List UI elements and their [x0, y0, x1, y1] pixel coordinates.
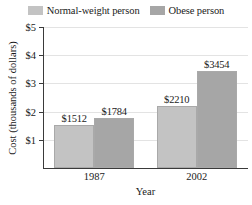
y-axis-tick-label: $5	[26, 22, 37, 33]
x-axis-line	[43, 168, 248, 169]
gridline	[44, 27, 248, 28]
legend-swatch-obese	[150, 6, 165, 15]
bar-value-label: $1512	[62, 113, 87, 124]
legend-swatch-normal-weight	[28, 6, 43, 15]
y-axis-tick	[39, 140, 44, 141]
y-axis-title: Cost (thousands of dollars)	[7, 28, 21, 168]
y-axis-tick	[39, 55, 44, 56]
bar-value-label: $3454	[204, 59, 229, 70]
legend-label-normal-weight: Normal-weight person	[47, 5, 140, 16]
x-axis-category-label: 1987	[84, 171, 105, 182]
y-axis-tick-label: $2	[26, 106, 37, 117]
plot-area: $1$2$3$4$5 $1512$1784$2210$3454	[43, 27, 248, 168]
y-axis-tick	[39, 112, 44, 113]
legend-entry-obese: Obese person	[150, 5, 225, 16]
bar: $1784	[94, 118, 134, 168]
legend-label-obese: Obese person	[169, 5, 225, 16]
y-axis-tick	[39, 83, 44, 84]
bar-value-label: $1784	[102, 106, 127, 117]
y-axis-tick-label: $4	[26, 50, 37, 61]
bar: $3454	[197, 71, 237, 168]
legend-entry-normal-weight: Normal-weight person	[28, 5, 140, 16]
gridline	[44, 55, 248, 56]
y-axis-tick-label: $1	[26, 134, 37, 145]
x-axis-category-label: 2002	[186, 171, 207, 182]
x-axis-title: Year	[43, 186, 248, 197]
y-axis-line	[43, 27, 44, 168]
y-axis-tick-label: $3	[26, 78, 37, 89]
bar-chart: Normal-weight person Obese person $1$2$3…	[0, 0, 252, 205]
bar: $2210	[157, 106, 197, 168]
bar-value-label: $2210	[164, 94, 189, 105]
bar: $1512	[54, 125, 94, 168]
chart-legend: Normal-weight person Obese person	[0, 2, 252, 18]
y-axis-tick	[39, 27, 44, 28]
